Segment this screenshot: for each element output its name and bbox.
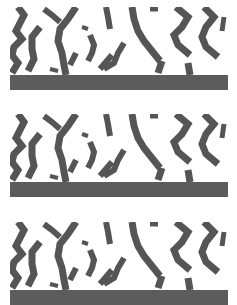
stripe (222, 124, 224, 138)
stripe (188, 278, 190, 290)
stripe (188, 170, 190, 182)
stripe (158, 168, 162, 180)
stripe (82, 134, 88, 136)
stripe (202, 114, 218, 164)
stripe (28, 27, 40, 71)
stripe (50, 284, 58, 286)
stripe (70, 160, 76, 172)
stripe (174, 114, 190, 162)
stripe (44, 116, 60, 129)
stripe (28, 242, 40, 286)
stripe (50, 176, 58, 178)
stripe (106, 222, 110, 244)
stripe (70, 53, 76, 65)
stripe (158, 276, 162, 288)
stripe (88, 250, 94, 276)
stripe (12, 222, 24, 288)
stripe (106, 114, 110, 136)
stripe (132, 114, 160, 168)
stripe (82, 27, 88, 29)
pattern-panel-1 (10, 7, 228, 90)
stripe (88, 142, 94, 168)
stripe (188, 63, 190, 75)
pattern-panel-3 (10, 222, 228, 305)
stripe-pattern (10, 7, 228, 75)
stripe (44, 224, 60, 237)
stripe-pattern (10, 222, 228, 290)
stripe (132, 222, 160, 276)
stripe (12, 114, 24, 180)
base-bar (10, 75, 228, 90)
stripe (12, 7, 24, 73)
stripe (106, 7, 110, 29)
stripe (132, 7, 160, 61)
base-bar (10, 182, 228, 197)
stripe (202, 222, 218, 272)
stripe (82, 242, 88, 244)
stripe (44, 9, 60, 22)
stripe (222, 17, 224, 31)
stripe (50, 69, 58, 71)
stripe (28, 134, 40, 178)
stripe (70, 268, 76, 280)
stripe (158, 61, 162, 73)
stripe (174, 222, 190, 270)
base-bar (10, 290, 228, 305)
pattern-panel-2 (10, 114, 228, 197)
stripe-pattern (10, 114, 228, 182)
stripe (222, 232, 224, 246)
stripe (202, 7, 218, 57)
stripe (88, 35, 94, 61)
stripe (174, 7, 190, 55)
